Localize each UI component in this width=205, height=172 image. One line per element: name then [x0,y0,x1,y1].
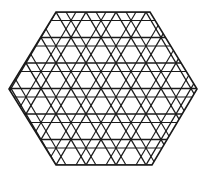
lattice-line [95,0,205,172]
lattice-line [0,0,17,172]
lattice-lines [0,0,205,172]
lattice-line [127,0,205,172]
lattice-line [0,0,107,172]
lattice-line [0,0,45,172]
lattice-line [157,0,205,172]
hexagram-lattice-diagram [0,0,205,172]
lattice-line [197,0,205,172]
lattice-line [0,0,27,172]
lattice-line [167,0,205,172]
lattice-svg [0,0,205,172]
lattice-line [0,0,125,172]
lattice-line [0,0,105,172]
lattice-line [0,0,5,172]
lattice-line [0,0,35,172]
